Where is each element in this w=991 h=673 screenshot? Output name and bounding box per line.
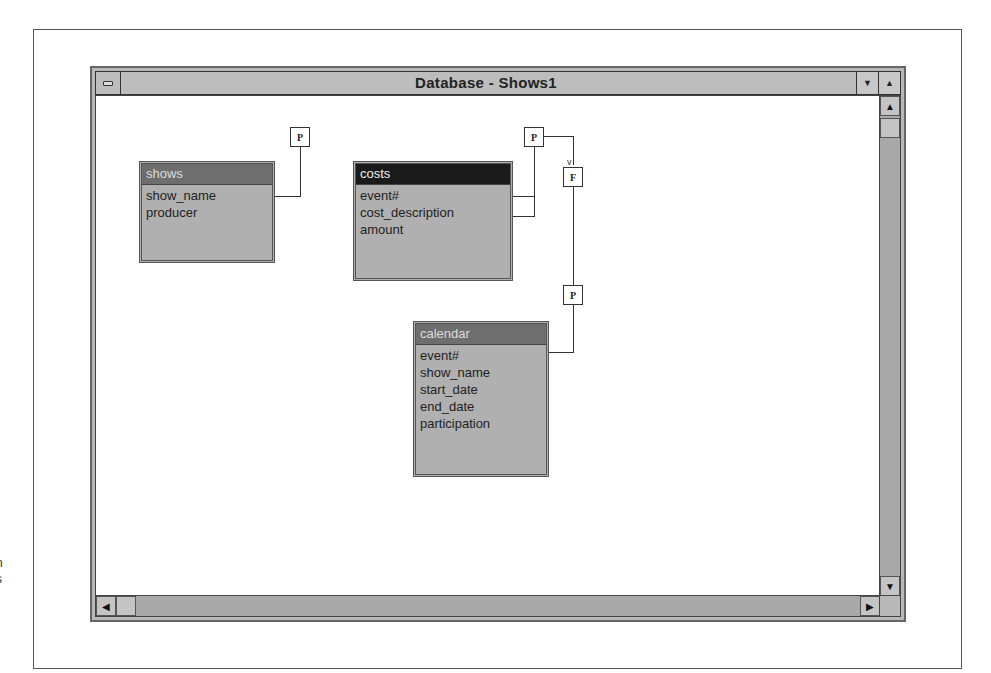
- table-costs[interactable]: costs event# cost_description amount: [353, 161, 513, 281]
- vertical-scroll-thumb[interactable]: [880, 118, 900, 138]
- relationship-line: [534, 147, 535, 217]
- diagram-canvas[interactable]: shows show_name producer costs event# co…: [95, 95, 881, 597]
- relationship-line: [275, 196, 301, 197]
- foreign-key-icon[interactable]: F: [563, 167, 583, 187]
- field[interactable]: amount: [360, 221, 506, 238]
- field[interactable]: show_name: [146, 187, 268, 204]
- relationship-line: [544, 136, 574, 137]
- relationship-line: [513, 216, 535, 217]
- arrow-left-icon: ◀: [102, 601, 110, 612]
- arrow-down-icon: ▼: [885, 581, 895, 592]
- scrollbar-corner: [879, 595, 901, 617]
- system-menu-button[interactable]: [96, 72, 121, 94]
- vertical-scrollbar[interactable]: ▲ ▼: [879, 95, 901, 597]
- minimize-icon: ▼: [863, 78, 872, 88]
- scroll-left-button[interactable]: ◀: [96, 596, 116, 616]
- scroll-down-button[interactable]: ▼: [880, 576, 900, 596]
- relationship-line: [573, 305, 574, 353]
- field[interactable]: producer: [146, 204, 268, 221]
- database-window: Database - Shows1 ▼ ▲ shows show_name pr…: [90, 66, 906, 622]
- arrow-right-icon: ▶: [866, 601, 874, 612]
- primary-key-icon[interactable]: P: [290, 127, 310, 147]
- maximize-button[interactable]: ▲: [878, 72, 900, 94]
- primary-key-icon[interactable]: P: [563, 285, 583, 305]
- table-calendar[interactable]: calendar event# show_name start_date end…: [413, 321, 549, 477]
- field[interactable]: end_date: [420, 398, 542, 415]
- cropped-caption-fragment: n: [0, 556, 3, 570]
- field[interactable]: participation: [420, 415, 542, 432]
- cropped-caption-fragment: s: [0, 572, 2, 586]
- field[interactable]: start_date: [420, 381, 542, 398]
- table-title: calendar: [416, 324, 546, 345]
- field[interactable]: cost_description: [360, 204, 506, 221]
- relationship-line: [573, 136, 574, 165]
- title-bar[interactable]: Database - Shows1 ▼ ▲: [95, 71, 901, 95]
- relationship-line: [549, 352, 574, 353]
- maximize-icon: ▲: [885, 78, 894, 88]
- arrow-head-icon: v: [567, 158, 572, 166]
- scroll-up-button[interactable]: ▲: [880, 96, 900, 116]
- window-title: Database - Shows1: [120, 72, 852, 94]
- arrow-up-icon: ▲: [885, 101, 895, 112]
- field[interactable]: event#: [360, 187, 506, 204]
- field[interactable]: show_name: [420, 364, 542, 381]
- table-title: costs: [356, 164, 510, 185]
- minimize-button[interactable]: ▼: [856, 72, 878, 94]
- relationship-line: [573, 187, 574, 286]
- relationship-line: [513, 196, 535, 197]
- table-shows[interactable]: shows show_name producer: [139, 161, 275, 263]
- primary-key-icon[interactable]: P: [524, 127, 544, 147]
- scroll-right-button[interactable]: ▶: [860, 596, 880, 616]
- horizontal-scrollbar[interactable]: ◀ ▶: [95, 595, 881, 617]
- relationship-line: [300, 147, 301, 197]
- system-menu-icon: [103, 81, 113, 86]
- table-title: shows: [142, 164, 272, 185]
- field[interactable]: event#: [420, 347, 542, 364]
- horizontal-scroll-thumb[interactable]: [116, 596, 136, 616]
